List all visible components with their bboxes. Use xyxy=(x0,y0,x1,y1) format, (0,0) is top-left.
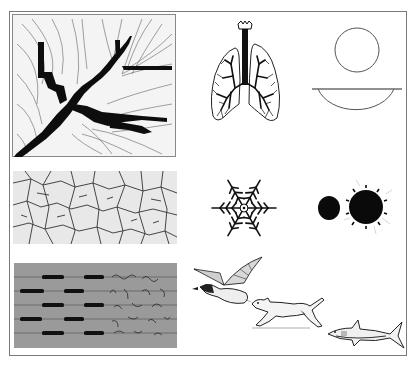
cracked-mud-illustration xyxy=(13,171,177,244)
snowflake-panel xyxy=(210,176,278,240)
drops-panel xyxy=(316,180,392,236)
flow-streaks-illustration xyxy=(14,263,177,348)
flow-streaks-panel xyxy=(14,263,177,348)
sphere-and-bowl-panel xyxy=(312,26,404,118)
tree-drainage-illustration xyxy=(12,14,176,157)
lungs-illustration xyxy=(205,20,285,126)
dog-illustration xyxy=(250,292,328,330)
sphere-and-bowl-illustration xyxy=(312,26,404,118)
tree-drainage-panel xyxy=(12,14,176,157)
lungs-panel xyxy=(205,20,285,126)
snowflake-icon xyxy=(210,176,278,240)
shark-panel xyxy=(326,318,406,350)
cracked-mud-panel xyxy=(13,171,177,244)
dog-panel xyxy=(250,292,328,330)
shark-illustration xyxy=(326,318,406,350)
drops-illustration xyxy=(316,180,392,236)
